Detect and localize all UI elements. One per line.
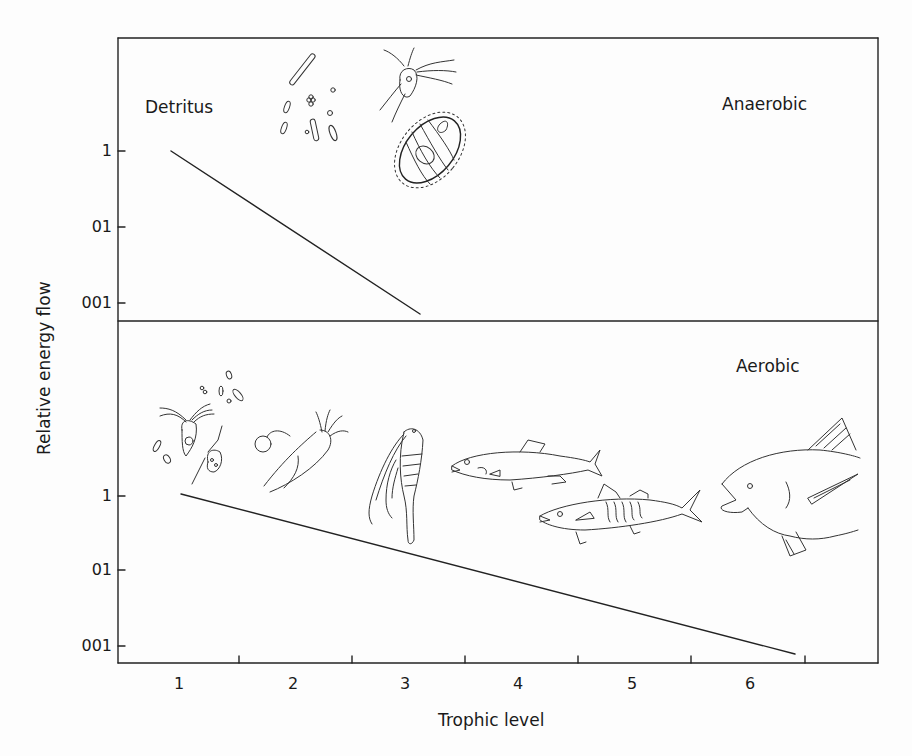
anaerobic-label: Anaerobic bbox=[722, 96, 807, 113]
herring-icon bbox=[452, 440, 602, 490]
mackerel-icon bbox=[540, 484, 702, 544]
predatory-fish-icon bbox=[721, 418, 860, 556]
y-ticks-anaerobic bbox=[118, 151, 125, 303]
y-ticks-aerobic bbox=[118, 496, 125, 646]
y-axis-label: Relative energy flow bbox=[34, 281, 54, 455]
x-tick-label: 3 bbox=[390, 676, 420, 692]
y-tick-label: 001 bbox=[62, 295, 112, 311]
trophic-energy-flow-figure: Detritus Anaerobic Aerobic 1 01 001 1 01… bbox=[0, 0, 912, 756]
y-tick-label: 001 bbox=[62, 638, 112, 654]
chaetognath-zooplankton-icon bbox=[264, 410, 348, 492]
plot-frame bbox=[118, 38, 878, 663]
detritus-label: Detritus bbox=[145, 99, 213, 116]
y-tick-label: 1 bbox=[62, 488, 112, 504]
phytoplankton-icon bbox=[152, 370, 245, 484]
appendicularian-icon bbox=[255, 431, 290, 452]
aerobic-label: Aerobic bbox=[736, 358, 800, 375]
anaerobic-energy-line bbox=[171, 151, 420, 314]
aerobic-energy-line bbox=[181, 494, 795, 654]
x-tick-label: 5 bbox=[617, 676, 647, 692]
copepod-icon bbox=[369, 429, 423, 544]
x-tick-label: 1 bbox=[164, 676, 194, 692]
x-axis-label: Trophic level bbox=[438, 710, 544, 730]
y-tick-label: 01 bbox=[62, 219, 112, 235]
detritus-particles-icon bbox=[280, 53, 339, 142]
y-tick-label: 01 bbox=[62, 562, 112, 578]
y-tick-label: 1 bbox=[62, 143, 112, 159]
x-tick-label: 6 bbox=[735, 676, 765, 692]
x-tick-label: 2 bbox=[278, 676, 308, 692]
x-tick-label: 4 bbox=[503, 676, 533, 692]
x-ticks bbox=[239, 656, 805, 663]
flagellate-protozoan-icon bbox=[380, 48, 456, 122]
